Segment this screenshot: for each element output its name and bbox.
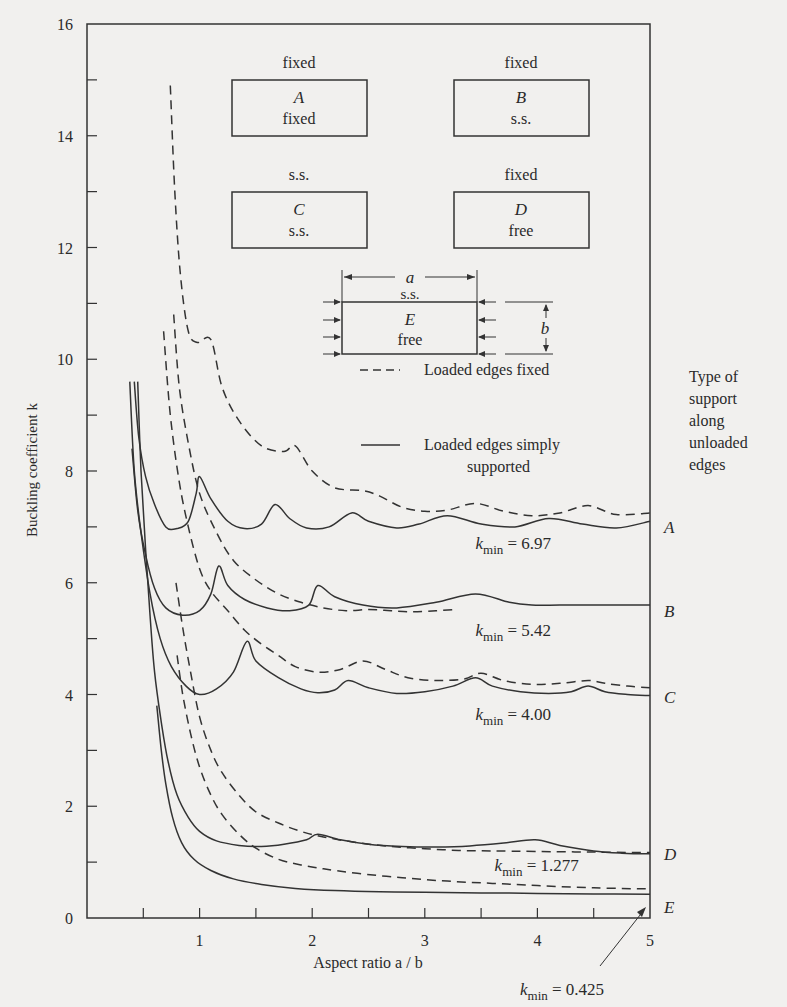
svg-text:B: B	[516, 88, 527, 107]
svg-text:Type of: Type of	[689, 368, 739, 386]
support-box-c: s.s.Cs.s.	[232, 166, 367, 248]
y-tick-label: 6	[65, 575, 73, 592]
x-tick-label: 4	[533, 932, 541, 949]
y-tick-label: 0	[65, 910, 73, 927]
svg-text:D: D	[514, 200, 528, 219]
x-axis-label: Aspect ratio a / b	[313, 954, 422, 972]
y-tick-label: 4	[65, 687, 73, 704]
legend-dashed-label: Loaded edges fixed	[424, 361, 549, 379]
svg-text:support: support	[689, 390, 738, 408]
plot-frame	[87, 24, 650, 918]
y-axis-label: Buckling coefficient k	[24, 403, 40, 537]
support-box-b: fixedBs.s.	[454, 54, 589, 136]
curve-c-dashed	[164, 331, 650, 688]
svg-text:C: C	[293, 200, 305, 219]
x-tick-label: 1	[196, 932, 204, 949]
svg-text:A: A	[293, 88, 305, 107]
curve-label-d: D	[663, 845, 677, 864]
curve-label-b: B	[664, 602, 675, 621]
support-diagrams: fixedAfixedfixedBs.s.s.s.Cs.s.fixedDfree	[232, 54, 589, 248]
legend-solid-label-line2: supported	[467, 458, 530, 476]
kmin-annotation-d: kmin = 1.277	[495, 856, 580, 879]
curve-d-dashed	[176, 583, 650, 853]
svg-text:s.s.: s.s.	[289, 222, 309, 239]
support-box-a: fixedAfixed	[232, 54, 367, 136]
curve-c-solid	[130, 382, 650, 696]
y-tick-label: 8	[65, 463, 73, 480]
y-tick-label: 2	[65, 798, 73, 815]
svg-text:s.s.: s.s.	[289, 166, 309, 183]
plate-e-letter: E	[404, 310, 416, 329]
dim-a-label: a	[406, 268, 415, 287]
svg-text:s.s.: s.s.	[511, 110, 531, 127]
curve-b-solid	[132, 449, 650, 616]
curve-label-a: A	[663, 518, 675, 537]
curve-e-dashed	[177, 655, 650, 889]
annotations: ABCDEkmin = 6.97kmin = 5.42kmin = 4.00km…	[475, 518, 677, 1003]
y-tick-label: 14	[57, 128, 73, 145]
svg-text:fixed: fixed	[505, 54, 538, 71]
y-tick-label: 12	[57, 240, 73, 257]
curves	[130, 86, 650, 895]
y-tick-label: 16	[57, 16, 73, 33]
curve-label-c: C	[664, 688, 676, 707]
svg-text:fixed: fixed	[505, 166, 538, 183]
buckling-chart: 123450246810121416 Aspect ratio a / b Bu…	[0, 0, 787, 1007]
svg-text:fixed: fixed	[283, 110, 316, 127]
dim-b-label: b	[541, 319, 550, 338]
plate-e-bottom-label: free	[398, 331, 423, 348]
svg-text:free: free	[509, 222, 534, 239]
support-type-label: Type ofsupportalongunloadededges	[689, 368, 748, 474]
svg-text:edges: edges	[689, 456, 725, 474]
curve-a-solid	[134, 382, 650, 530]
svg-text:unloaded: unloaded	[689, 434, 748, 451]
curve-b-dashed	[174, 315, 453, 612]
y-tick-label: 10	[57, 351, 73, 368]
x-tick-label: 3	[421, 932, 429, 949]
x-tick-label: 5	[646, 932, 654, 949]
svg-text:along: along	[689, 412, 725, 430]
legend: Loaded edges fixed Loaded edges simply s…	[360, 361, 560, 476]
legend-solid-label-line1: Loaded edges simply	[424, 436, 560, 454]
support-box-d: fixedDfree	[454, 166, 589, 248]
svg-text:fixed: fixed	[283, 54, 316, 71]
kmin-annotation-a: kmin = 6.97	[475, 534, 551, 557]
plate-e-diagram: a s.s. E free b	[323, 268, 553, 357]
kmin-annotation-e: kmin = 0.425	[520, 980, 604, 1003]
kmin-annotation-b: kmin = 5.42	[475, 621, 551, 644]
plate-e-top-label: s.s.	[400, 286, 419, 302]
kmin-annotation-c: kmin = 4.00	[475, 705, 551, 728]
x-tick-label: 2	[308, 932, 316, 949]
curve-d-solid	[138, 382, 650, 854]
curve-label-e: E	[663, 898, 675, 917]
